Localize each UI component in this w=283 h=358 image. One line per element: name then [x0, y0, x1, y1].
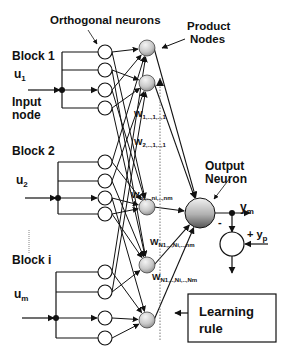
- product-node: [139, 75, 155, 91]
- orthogonal-neuron: [98, 174, 112, 188]
- orthogonal-neuron: [98, 155, 112, 169]
- product-node: [139, 40, 155, 56]
- product-to-output-line: [154, 207, 184, 211]
- connection-line: [112, 324, 139, 338]
- orthogonal-pointer: [88, 30, 97, 44]
- minus-sign: -: [218, 216, 222, 228]
- product-node: [139, 312, 155, 328]
- orthogonal-neurons-label: Orthogonal neurons: [50, 14, 161, 26]
- product-label-2: Nodes: [190, 33, 225, 45]
- u2-label: u2: [16, 173, 28, 189]
- comparator-node: [220, 232, 244, 256]
- product-label-1: Product: [187, 20, 231, 32]
- input-node: [55, 195, 61, 201]
- um-label: um: [14, 287, 28, 303]
- connections: [112, 48, 196, 338]
- input-node-label-1: Input: [12, 95, 41, 109]
- output-label-1: Output: [205, 159, 244, 173]
- connection-line: [112, 49, 138, 52]
- orthogonal-neuron: [98, 331, 112, 345]
- orthogonal-neuron: [98, 83, 112, 97]
- block2-label: Block 2: [12, 144, 55, 158]
- weight-label: WN1,..,Ni,..,Nm: [152, 272, 197, 283]
- connection-line: [112, 318, 138, 319]
- output-neuron: [185, 198, 215, 228]
- ym-label: ym: [240, 200, 254, 216]
- orthogonal-neuron: [98, 285, 112, 299]
- orthogonal-neuron: [98, 207, 112, 221]
- yp-label: + yp: [247, 228, 268, 243]
- connection-line: [112, 108, 145, 256]
- input-node: [53, 315, 59, 321]
- connection-line: [112, 70, 145, 256]
- product-node: [139, 257, 155, 273]
- neural-network-diagram: Orthogonal neurons Product Nodes Output …: [0, 0, 283, 358]
- input-node: [59, 87, 65, 93]
- orthogonal-neuron: [98, 311, 112, 325]
- product-nodes-pointer: [162, 39, 185, 48]
- output-label-2: Neuron: [205, 172, 247, 186]
- learning-rule-label-1: Learning: [199, 304, 254, 319]
- orthogonal-neuron: [98, 101, 112, 115]
- orthogonal-neuron: [98, 45, 112, 59]
- product-node: [139, 199, 155, 215]
- connection-line: [112, 272, 142, 313]
- weight-label: W1,..,1,..,1: [134, 109, 167, 120]
- blocki-label: Block i: [12, 253, 51, 267]
- weight-label: W2,..,1,..,1: [134, 137, 167, 148]
- orthogonal-neuron: [98, 191, 112, 205]
- orthogonal-neuron: [98, 265, 112, 279]
- learning-rule-label-2: rule: [199, 321, 223, 336]
- orthogonal-neurons: [98, 45, 112, 345]
- orthogonal-neuron: [98, 63, 112, 77]
- weight-label: Wni,..,ni,..,nm: [131, 190, 173, 201]
- block1-label: Block 1: [12, 49, 55, 63]
- weight-label: WN1,..,Ni,..,nm: [150, 237, 195, 248]
- input-node-label-2: node: [12, 108, 41, 122]
- u1-label: u1: [14, 67, 26, 83]
